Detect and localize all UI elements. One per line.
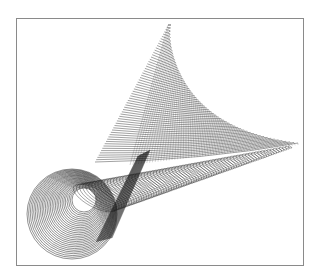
cone-circles <box>27 169 117 259</box>
surface-drawing <box>0 0 326 280</box>
horn-sheet <box>130 25 298 165</box>
